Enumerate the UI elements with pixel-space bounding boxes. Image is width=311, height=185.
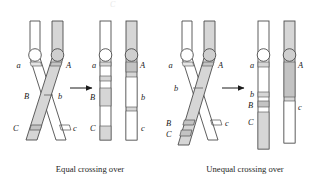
unequal-before-centromere-left	[181, 49, 194, 62]
label-B-unequal-before: B	[166, 119, 171, 128]
unequal-after-right-band-A	[284, 62, 295, 97]
unequal-before-band-B	[183, 120, 195, 125]
equal-after-centromere-right	[125, 49, 138, 62]
unequal-after-centromere-left	[257, 49, 270, 62]
label-C-equal-after: C	[90, 124, 96, 133]
equal-after-left-band-a	[100, 62, 111, 66]
equal-before-centromere-left	[29, 49, 42, 62]
equal-after-left-band-B	[100, 88, 111, 106]
unequal-after-left-band-B	[258, 101, 269, 107]
label-B-equal-after: B	[90, 93, 95, 102]
label-c-equal-before: c	[73, 124, 77, 133]
equal-after-right-band-A	[126, 62, 137, 72]
equal-before-band-a	[30, 62, 42, 66]
label-a-unequal-before: a	[169, 61, 173, 70]
equal-after-left-band-C	[100, 126, 111, 140]
label-b-equal-after: b	[141, 93, 145, 102]
equal-after-right-band-b	[126, 77, 137, 107]
unequal-before-centromere-right	[203, 49, 216, 62]
unequal-before-band-a	[182, 62, 194, 66]
label-B-equal-before: B	[24, 92, 29, 101]
label-A-unequal-after: A	[297, 61, 304, 70]
unequal-before-right-upper-arm	[204, 21, 215, 52]
unequal-before-band-A	[202, 62, 214, 66]
label-a-unequal-after: a	[250, 61, 254, 70]
unequal-after-left-band-a	[258, 62, 269, 67]
equal-before-right-upper-arm	[52, 21, 63, 52]
unequal-after-left-band-b	[258, 92, 269, 97]
label-A-equal-after: A	[139, 61, 146, 70]
label-c-unequal-before: c	[225, 119, 229, 128]
caption-equal: Equal crossing over	[56, 164, 124, 174]
equal-before-band-C	[30, 125, 42, 130]
label-b-equal-before: b	[58, 92, 62, 101]
label-a-equal-before: a	[17, 61, 21, 70]
equal-before-band-A	[50, 62, 62, 66]
equal-before-centromere-right	[51, 49, 64, 62]
unequal-before-left-upper-arm	[182, 21, 192, 52]
label-b-unequal-before: b	[174, 84, 178, 93]
equal-before-left-upper-arm	[30, 21, 40, 52]
label-a-equal-after: a	[92, 61, 96, 70]
label-A-unequal-before: A	[217, 61, 224, 70]
unequal-after-centromere-right	[283, 49, 296, 62]
unequal-after-right-band-c	[284, 101, 295, 143]
figure-canvas: C a A B	[0, 0, 311, 185]
label-C-unequal-before: C	[166, 130, 172, 139]
label-c-unequal-after: c	[298, 103, 302, 112]
equal-after-centromere-left	[99, 49, 112, 62]
label-c-equal-after: c	[141, 124, 145, 133]
unequal-after-left-band-C	[258, 112, 269, 149]
crossing-over-figure: C a A B	[0, 0, 311, 185]
equal-after-left-band-mid1	[100, 76, 111, 81]
label-A-equal-before: A	[65, 61, 72, 70]
cropped-top-glyph: C	[110, 0, 116, 9]
label-B-unequal-after: B	[248, 101, 253, 110]
unequal-before-band-C	[180, 130, 192, 136]
label-C-equal-before: C	[13, 124, 19, 133]
label-b-unequal-after: b	[250, 90, 254, 99]
label-C-unequal-after: C	[248, 118, 254, 127]
equal-after-right-band-c	[126, 111, 137, 140]
caption-unequal: Unequal crossing over	[206, 164, 283, 174]
